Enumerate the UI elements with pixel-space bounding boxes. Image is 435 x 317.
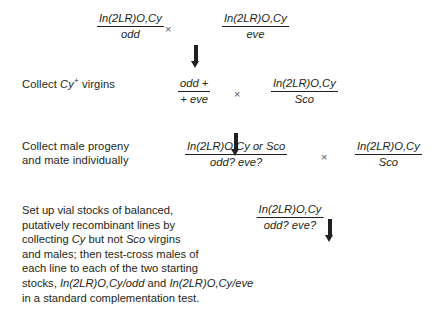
caption-line-3-a: collecting <box>22 233 72 245</box>
caption-line-6: stocks, In(2LR)O,Cy/odd and In(2LR)O,Cy/… <box>22 276 312 291</box>
fraction-denominator: odd? eve? <box>185 155 287 169</box>
row3-instruction: Collect male progeny and mate individual… <box>22 140 129 167</box>
caption-line-1: Set up vial stocks of balanced, <box>22 203 312 218</box>
fraction-numerator: In(2LR)O,Cy <box>355 140 422 155</box>
caption-gene-cy: Cy <box>72 233 86 245</box>
caption-line-3-b: but not <box>85 233 125 245</box>
row1-times-symbol: × <box>165 23 171 35</box>
caption-stock-odd: In(2LR)O,Cy/odd <box>60 277 145 289</box>
caption-line-3-c: virgins <box>145 233 180 245</box>
fraction-numerator: In(2LR)O,Cy <box>271 77 338 92</box>
caption-line-6-a: stocks, <box>22 277 60 289</box>
row2-instruction-post: virgins <box>79 78 115 90</box>
fraction-numerator: In(2LR)O,Cy <box>222 12 289 27</box>
caption-line-5: each line to each of the two starting <box>22 261 312 276</box>
caption-line-3: collecting Cy but not Sco virgins <box>22 232 312 247</box>
row3-left-genotype: In(2LR)O,Cy or Sco odd? eve? <box>185 140 287 170</box>
caption-paragraph: Set up vial stocks of balanced, putative… <box>22 203 312 305</box>
caption-line-4: and males; then test-cross males of <box>22 247 312 262</box>
fraction-numerator: In(2LR)O,Cy <box>97 12 164 27</box>
caption-stock-eve: In(2LR)O,Cy/eve <box>169 277 253 289</box>
fraction: In(2LR)O,Cy odd <box>97 12 164 41</box>
crossing-scheme-figure: In(2LR)O,Cy odd × In(2LR)O,Cy eve Collec… <box>0 0 435 317</box>
fraction: In(2LR)O,Cy eve <box>222 12 289 41</box>
caption-gene-sco: Sco <box>126 233 145 245</box>
row2-times-symbol: × <box>234 88 240 100</box>
row2-instruction: Collect Cy+ virgins <box>22 78 115 92</box>
down-arrow-icon <box>325 219 334 242</box>
fraction-denominator: + eve <box>178 92 210 106</box>
caption-line-6-b: and <box>144 277 169 289</box>
row2-right-genotype: In(2LR)O,Cy Sco <box>271 77 338 107</box>
row1-right-genotype: In(2LR)O,Cy eve <box>222 12 289 42</box>
fraction-numerator: odd + <box>178 77 210 92</box>
row3-times-symbol: × <box>321 151 327 163</box>
row2-left-genotype: odd + + eve <box>178 77 210 107</box>
fraction: odd + + eve <box>178 77 210 106</box>
fraction: In(2LR)O,Cy Sco <box>271 77 338 106</box>
caption-line-2: putatively recombinant lines by <box>22 218 312 233</box>
row2-instruction-pre: Collect <box>22 78 60 90</box>
fraction-numerator: In(2LR)O,Cy or Sco <box>185 140 287 155</box>
fraction-denominator: Sco <box>355 155 422 169</box>
fraction-denominator: eve <box>222 27 289 41</box>
caption-line-7: in a standard complementation test. <box>22 291 312 306</box>
fraction: In(2LR)O,Cy Sco <box>355 140 422 169</box>
fraction: In(2LR)O,Cy or Sco odd? eve? <box>185 140 287 169</box>
row1-left-genotype: In(2LR)O,Cy odd <box>97 12 164 42</box>
row2-instruction-italic: Cy <box>60 78 74 90</box>
fraction-denominator: Sco <box>271 92 338 106</box>
down-arrow-icon <box>191 45 200 68</box>
fraction-denominator: odd <box>97 27 164 41</box>
row3-right-genotype: In(2LR)O,Cy Sco <box>355 140 422 170</box>
